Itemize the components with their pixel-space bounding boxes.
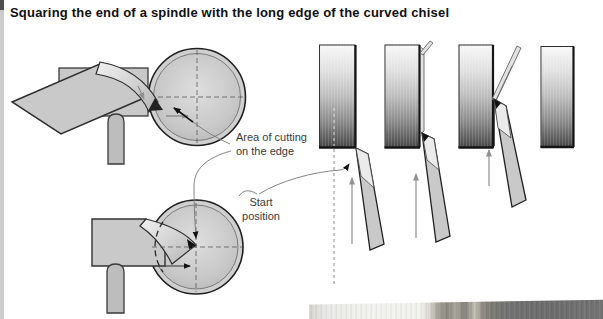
- cut-sequence-panel-1: [319, 45, 384, 287]
- diagram-artwork: [0, 0, 603, 319]
- tool-rest-post: [108, 114, 124, 164]
- start-position-label: Start position: [237, 196, 285, 223]
- cut-sequence: [319, 41, 574, 287]
- cut-sequence-panel-3: [459, 45, 527, 207]
- cut-sequence-panel-4: [541, 47, 575, 148]
- tool-rest-post-lower: [107, 264, 124, 313]
- start-position-line1: Start: [237, 196, 285, 210]
- area-of-cutting-line2: on the edge: [236, 145, 316, 159]
- shaving-sliver: [421, 47, 425, 134]
- shaving-peel: [492, 46, 521, 101]
- cut-sequence-panel-2: [385, 41, 451, 242]
- leader-start-to-panel1: [259, 164, 349, 194]
- top-view-skew-diagram: [12, 49, 246, 165]
- area-of-cutting-label: Area of cutting on the edge: [236, 131, 316, 158]
- spindle-end-circle: [149, 49, 246, 146]
- start-position-line2: position: [237, 210, 285, 224]
- shaving-inner-line: [495, 66, 512, 102]
- book-illustration-page: Squaring the end of a spindle with the l…: [0, 0, 603, 319]
- top-view-start-diagram: [92, 200, 243, 313]
- area-of-cutting-line1: Area of cutting: [236, 131, 316, 145]
